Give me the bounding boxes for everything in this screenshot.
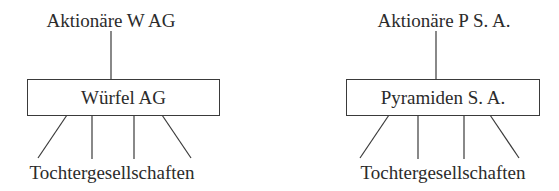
subsidiary-link: [360, 115, 389, 158]
company-box-left: Würfel AG: [27, 79, 220, 116]
subsidiary-link: [162, 115, 191, 158]
subsidiaries-label-right: Tochtergesellschaften: [360, 163, 525, 182]
subsidiaries-label-left: Tochtergesellschaften: [29, 163, 194, 182]
subsidiary-link: [490, 115, 519, 158]
shareholders-label-left: Aktionäre W AG: [46, 11, 175, 30]
company-name-right: Pyramiden S. A.: [381, 87, 506, 109]
company-name-left: Würfel AG: [81, 87, 166, 109]
shareholders-label-right: Aktionäre P S. A.: [378, 11, 511, 30]
company-box-right: Pyramiden S. A.: [346, 79, 540, 116]
subsidiary-link: [38, 115, 67, 158]
